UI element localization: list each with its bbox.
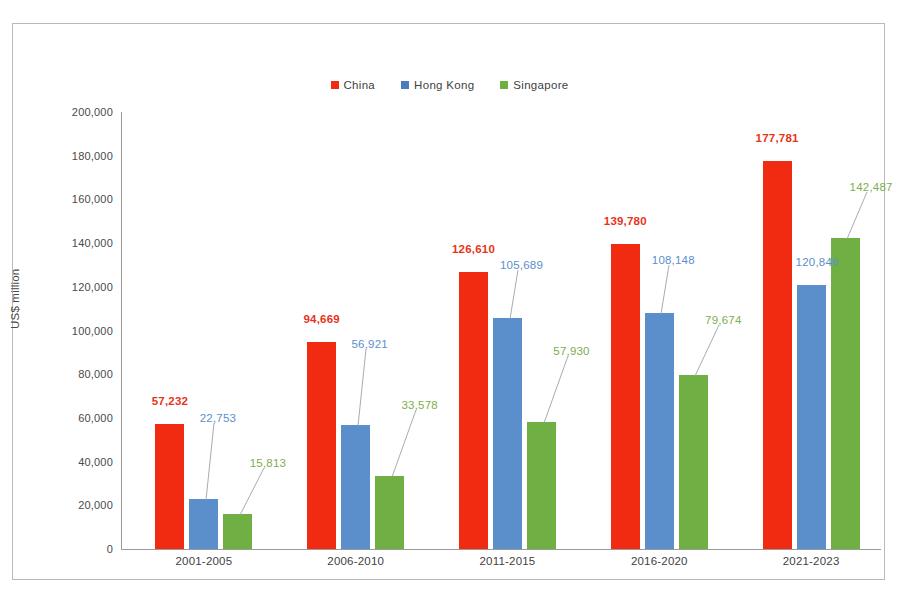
bar-group: 2011-2015	[459, 112, 556, 549]
legend-label: Singapore	[513, 79, 568, 91]
data-label-hong-kong: 120,849	[796, 256, 839, 268]
x-axis-category-label: 2006-2010	[307, 555, 404, 567]
x-axis-category-label: 2021-2023	[763, 555, 860, 567]
bar-group: 2021-2023	[763, 112, 860, 549]
data-label-china: 126,610	[452, 243, 495, 255]
data-label-china: 57,232	[152, 395, 188, 407]
y-axis-tick-label: 140,000	[72, 237, 113, 249]
chart-legend: ChinaHong KongSingapore	[13, 79, 886, 91]
y-axis-tick-label: 200,000	[72, 106, 113, 118]
bar-singapore[interactable]	[223, 514, 252, 549]
y-axis-tick-label: 40,000	[78, 456, 113, 468]
bar-singapore[interactable]	[527, 422, 556, 549]
data-label-hong-kong: 108,148	[652, 254, 695, 266]
data-label-china: 94,669	[304, 313, 340, 325]
y-axis-tick-label: 180,000	[72, 150, 113, 162]
bar-hong-kong[interactable]	[189, 499, 218, 549]
bar-china[interactable]	[155, 424, 184, 549]
legend-item-china[interactable]: China	[331, 79, 376, 91]
bar-group: 2001-2005	[155, 112, 252, 549]
chart-container: ChinaHong KongSingapore US$ million 020,…	[12, 23, 885, 580]
data-label-china: 139,780	[604, 215, 647, 227]
data-label-china: 177,781	[756, 132, 799, 144]
data-label-hong-kong: 22,753	[200, 412, 236, 424]
bar-group-bars	[459, 112, 556, 549]
y-axis-tick-label: 160,000	[72, 193, 113, 205]
x-axis-category-label: 2001-2005	[155, 555, 252, 567]
bar-group: 2016-2020	[611, 112, 708, 549]
bar-group-bars	[763, 112, 860, 549]
data-label-singapore: 33,578	[402, 399, 438, 411]
data-label-singapore: 15,813	[250, 457, 286, 469]
bar-hong-kong[interactable]	[341, 425, 370, 549]
legend-swatch-icon	[331, 81, 339, 89]
plot-area: 2001-20052006-20102011-20152016-20202021…	[122, 112, 881, 549]
bar-group-bars	[307, 112, 404, 549]
data-label-singapore: 57,930	[553, 345, 589, 357]
bar-hong-kong[interactable]	[797, 285, 826, 549]
legend-label: China	[344, 79, 376, 91]
bar-china[interactable]	[459, 272, 488, 549]
y-axis-tick-label: 20,000	[78, 499, 113, 511]
data-label-hong-kong: 105,689	[500, 259, 543, 271]
legend-swatch-icon	[500, 81, 508, 89]
figure-caption	[14, 590, 714, 606]
y-axis-tick-label: 0	[107, 543, 113, 555]
bar-group-bars	[155, 112, 252, 549]
y-axis-tick-label: 120,000	[72, 281, 113, 293]
data-label-singapore: 79,674	[705, 314, 741, 326]
bar-group-bars	[611, 112, 708, 549]
bar-singapore[interactable]	[375, 476, 404, 549]
y-axis: 020,00040,00060,00080,000100,000120,0001…	[49, 24, 121, 581]
data-label-hong-kong: 56,921	[352, 338, 388, 350]
bar-singapore[interactable]	[831, 238, 860, 549]
data-label-singapore: 142,487	[850, 181, 893, 193]
y-axis-tick-label: 80,000	[78, 368, 113, 380]
bar-china[interactable]	[763, 161, 792, 549]
x-axis-line	[121, 549, 881, 550]
y-axis-tick-label: 100,000	[72, 325, 113, 337]
x-axis-category-label: 2016-2020	[611, 555, 708, 567]
legend-swatch-icon	[401, 81, 409, 89]
y-axis-tick-label: 60,000	[78, 412, 113, 424]
legend-item-singapore[interactable]: Singapore	[500, 79, 568, 91]
y-axis-title: US$ million	[9, 269, 21, 329]
bar-singapore[interactable]	[679, 375, 708, 549]
bar-china[interactable]	[611, 244, 640, 549]
bar-group: 2006-2010	[307, 112, 404, 549]
x-axis-category-label: 2011-2015	[459, 555, 556, 567]
legend-label: Hong Kong	[414, 79, 474, 91]
bar-hong-kong[interactable]	[645, 313, 674, 549]
bar-hong-kong[interactable]	[493, 318, 522, 549]
legend-item-hong-kong[interactable]: Hong Kong	[401, 79, 474, 91]
bar-china[interactable]	[307, 342, 336, 549]
